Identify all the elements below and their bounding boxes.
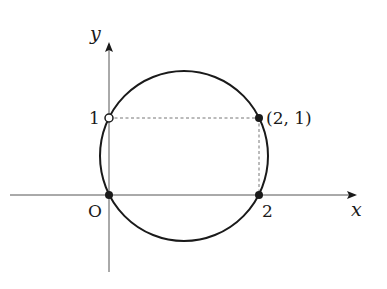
point-x-intercept [255, 191, 263, 199]
origin-label: O [88, 201, 102, 221]
point-origin [105, 191, 113, 199]
x-axis-label: x [351, 198, 362, 220]
circle-curve [100, 71, 268, 241]
y-tick-label: 1 [89, 108, 100, 128]
point-corner [255, 114, 263, 122]
coordinate-diagram: y x O 1 2 (2, 1) [0, 0, 387, 289]
point-y-intercept-open [105, 114, 113, 122]
x-tick-label: 2 [262, 201, 273, 221]
corner-point-label: (2, 1) [266, 108, 312, 128]
y-axis-label: y [89, 22, 101, 44]
